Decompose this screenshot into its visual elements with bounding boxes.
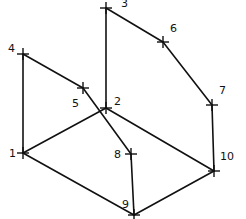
- edge-1-9: [23, 153, 134, 215]
- edge-8-9: [131, 154, 134, 215]
- wireframe-diagram: 12345678910: [0, 0, 246, 219]
- edge-5-8: [83, 88, 131, 154]
- node-8: 8: [114, 148, 137, 161]
- edge-9-10: [134, 171, 214, 215]
- edge-1-2: [23, 108, 106, 153]
- node-1: 1: [9, 147, 29, 160]
- edge-2-10: [106, 108, 214, 171]
- edges-group: [23, 8, 214, 215]
- node-6: 6: [157, 22, 177, 48]
- node-9: 9: [122, 198, 140, 219]
- edge-3-6: [106, 8, 163, 42]
- node-label: 1: [9, 147, 16, 160]
- edge-6-7: [163, 42, 212, 105]
- node-label: 5: [72, 97, 79, 110]
- node-label: 2: [114, 95, 121, 108]
- node-label: 6: [170, 22, 177, 35]
- node-label: 3: [121, 0, 128, 10]
- node-label: 9: [122, 198, 129, 211]
- node-7: 7: [206, 84, 226, 111]
- node-label: 7: [219, 84, 226, 97]
- node-label: 4: [8, 42, 15, 55]
- nodes-group: 12345678910: [8, 0, 234, 219]
- edge-4-5: [23, 54, 83, 88]
- node-4: 4: [8, 42, 29, 60]
- edge-7-10: [212, 105, 214, 171]
- node-label: 10: [220, 150, 234, 163]
- node-label: 8: [114, 148, 121, 161]
